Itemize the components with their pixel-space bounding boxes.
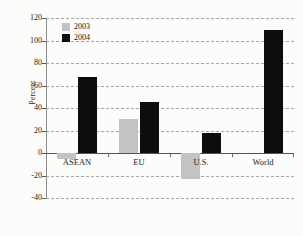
x-category-label: World [232,157,294,167]
y-tick-label: 40 [18,104,42,112]
y-axis-tick [42,198,46,199]
legend-swatch-icon [62,23,70,31]
legend-swatch-icon [62,34,70,42]
x-axis-tick [170,153,171,157]
y-axis-tick [42,63,46,64]
legend-label: 2003 [74,22,90,31]
bar-asean-2004 [78,77,97,154]
y-tick-label: 120 [18,14,42,22]
legend-label: 2004 [74,33,90,42]
y-tick-label: 20 [18,127,42,135]
x-category-label: U.S. [170,157,232,167]
y-tick-label: -20 [18,172,42,180]
x-axis-tick [232,153,233,157]
y-tick-label: 60 [18,82,42,90]
gridline [46,198,294,199]
x-axis-tick [108,153,109,157]
bar-us-2004 [202,133,221,153]
legend-item: 2003 [62,21,90,32]
gridline [46,18,294,19]
y-tick-label: 80 [18,59,42,67]
gridline [46,176,294,177]
y-axis-tick [42,176,46,177]
y-tick-label: 100 [18,37,42,45]
y-tick-label: -40 [18,194,42,202]
bar-world-2004 [264,30,283,153]
y-axis-tick [42,108,46,109]
y-axis-tick [42,41,46,42]
x-category-label: ASEAN [46,157,108,167]
chart-legend: 20032004 [62,21,90,43]
bar-chart: Percent 120100806040200-20-40 ASEANEUU.S… [0,0,303,236]
y-axis-tick-labels: 120100806040200-20-40 [18,0,42,236]
legend-item: 2004 [62,32,90,43]
bar-eu-2004 [140,102,159,153]
y-axis-tick [42,131,46,132]
gridline [46,63,294,64]
y-axis-tick [42,86,46,87]
bar-eu-2003 [119,119,138,153]
y-tick-label: 0 [18,149,42,157]
x-axis-tick [293,153,294,157]
y-axis-tick [42,18,46,19]
y-axis-tick [42,153,46,154]
plot-area: ASEANEUU.S.World [46,18,294,198]
x-category-label: EU [108,157,170,167]
